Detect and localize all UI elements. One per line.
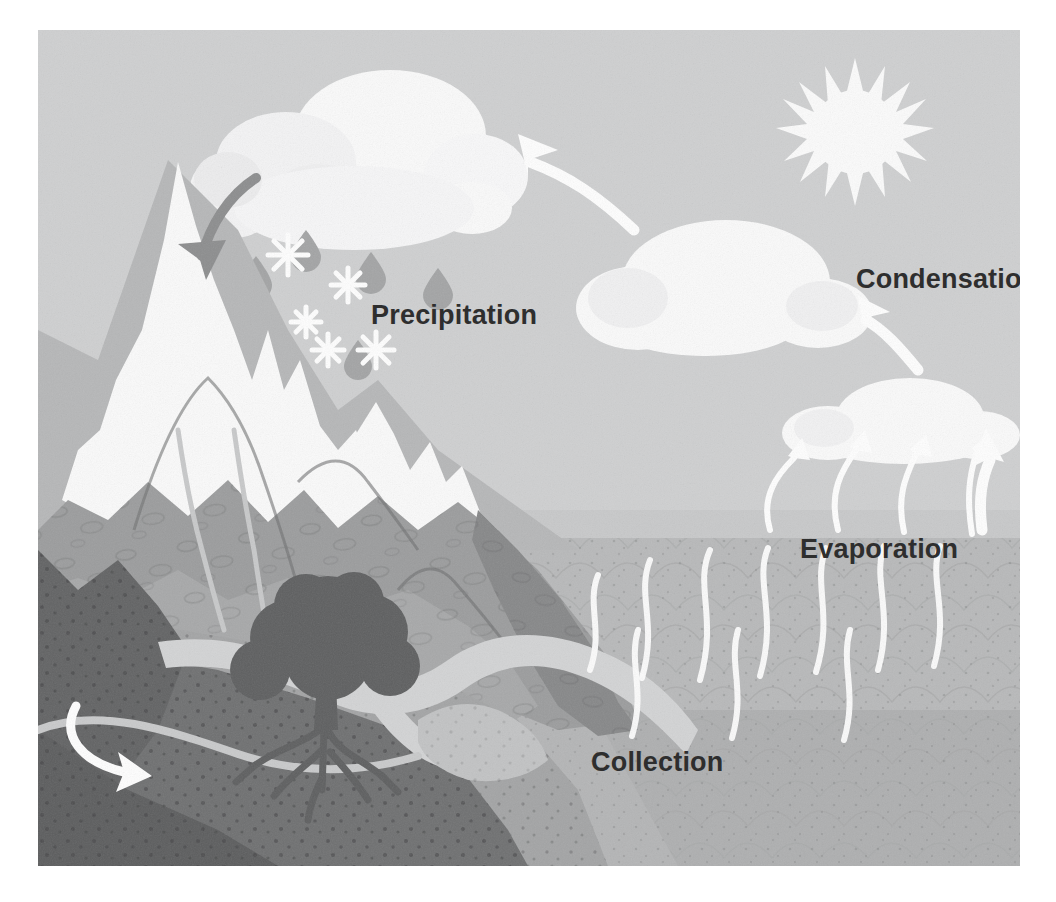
water-cycle-illustration: Precipitation Condensation Evaporation C… [38, 30, 1020, 866]
label-precipitation: Precipitation [371, 300, 537, 331]
label-evaporation: Evaporation [800, 534, 958, 565]
label-condensation: Condensation [856, 264, 1020, 295]
label-collection: Collection [591, 747, 724, 778]
water-cycle-svg [38, 30, 1020, 866]
water-cycle-page: Precipitation Condensation Evaporation C… [0, 0, 1056, 902]
